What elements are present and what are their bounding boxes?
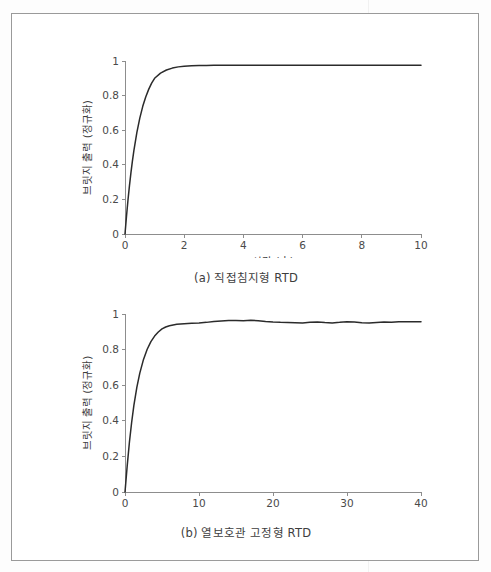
x-axis-title: 시간 (초): [252, 255, 294, 258]
x-tick-label: 40: [414, 497, 427, 509]
x-tick-label: 2: [181, 239, 188, 251]
x-tick-label: 0: [122, 239, 129, 251]
y-tick-label: 1: [112, 308, 119, 320]
figure-b-caption: (b) 열보호관 고정형 RTD: [12, 524, 480, 540]
x-tick-label: 6: [299, 239, 306, 251]
x-tick-label: 30: [340, 497, 353, 509]
y-tick-label: 0.6: [102, 379, 119, 391]
x-tick-label: 20: [266, 497, 279, 509]
y-axis-title: 브릿지 출력 (정규화): [81, 100, 93, 195]
y-tick-label: 0: [112, 486, 119, 498]
chart-a-plot: 00.20.40.60.810246810시간 (초)브릿지 출력 (정규화): [12, 26, 480, 258]
page-frame: 00.20.40.60.810246810시간 (초)브릿지 출력 (정규화) …: [11, 13, 479, 561]
x-tick-label: 0: [122, 497, 129, 509]
x-tick-label: 10: [192, 497, 205, 509]
scanned-page: 00.20.40.60.810246810시간 (초)브릿지 출력 (정규화) …: [0, 0, 491, 572]
y-tick-label: 0.6: [102, 124, 119, 136]
data-curve: [125, 65, 421, 234]
data-curve: [125, 320, 421, 492]
chart-b-svg: 00.20.40.60.81010203040시간 (초)브릿지 출력 (정규화…: [12, 296, 480, 514]
y-tick-label: 0.8: [102, 89, 119, 101]
y-tick-label: 0: [112, 228, 119, 240]
chart-b-plot: 00.20.40.60.81010203040시간 (초)브릿지 출력 (정규화…: [12, 296, 480, 514]
figure-b: 00.20.40.60.81010203040시간 (초)브릿지 출력 (정규화…: [12, 296, 480, 558]
x-tick-label: 10: [414, 239, 427, 251]
y-tick-label: 0.8: [102, 343, 119, 355]
x-tick-label: 8: [358, 239, 365, 251]
y-tick-label: 0.4: [102, 414, 119, 426]
figure-a: 00.20.40.60.810246810시간 (초)브릿지 출력 (정규화) …: [12, 26, 480, 294]
x-axis-title: 시간 (초): [252, 513, 294, 514]
y-tick-label: 0.4: [102, 158, 119, 170]
y-tick-label: 0.2: [102, 193, 119, 205]
y-axis-title: 브릿지 출력 (정규화): [81, 356, 93, 451]
y-tick-label: 0.2: [102, 450, 119, 462]
figure-a-caption: (a) 직접침지형 RTD: [12, 269, 480, 285]
y-tick-label: 1: [112, 55, 119, 67]
x-tick-label: 4: [240, 239, 247, 251]
chart-a-svg: 00.20.40.60.810246810시간 (초)브릿지 출력 (정규화): [12, 26, 480, 258]
